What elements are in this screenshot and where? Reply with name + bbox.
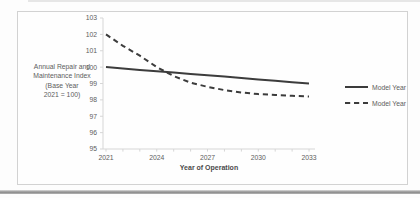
legend-label: Model Year 2019 xyxy=(372,84,407,91)
y-axis-tick-label: 101 xyxy=(86,47,98,54)
y-axis-tick-label: 98 xyxy=(89,96,97,103)
line-chart: 1031021011009998979695202120242027203020… xyxy=(18,12,407,184)
y-axis-title-line: (Base Year xyxy=(45,82,79,90)
y-axis-tick-label: 102 xyxy=(86,31,98,38)
legend-label: Model Year 2021 xyxy=(372,100,407,107)
series-line-solid xyxy=(106,67,309,83)
y-axis-tick-label: 95 xyxy=(89,145,97,152)
x-axis-tick-label: 2030 xyxy=(251,154,266,161)
x-axis-title: Year of Operation xyxy=(180,164,238,172)
x-axis-tick-label: 2024 xyxy=(149,154,164,161)
y-axis-tick-label: 103 xyxy=(86,14,98,21)
series-line-dashed xyxy=(106,34,309,96)
y-axis-tick-label: 96 xyxy=(89,129,97,136)
x-axis-tick-label: 2021 xyxy=(98,154,113,161)
scan-artifact-top-edge xyxy=(28,0,420,2)
y-axis-title-line: 2021 = 100) xyxy=(44,91,80,99)
y-axis-title-line: Annual Repair and xyxy=(34,63,91,71)
x-axis-tick-label: 2033 xyxy=(301,154,316,161)
y-axis-tick-label: 99 xyxy=(89,80,97,87)
y-axis-title-line: Maintenance Index xyxy=(33,72,91,79)
page-divider-rule xyxy=(0,190,420,194)
y-axis-tick-label: 97 xyxy=(89,113,97,120)
figure-frame: 1031021011009998979695202120242027203020… xyxy=(17,11,408,185)
x-axis-tick-label: 2027 xyxy=(200,154,215,161)
